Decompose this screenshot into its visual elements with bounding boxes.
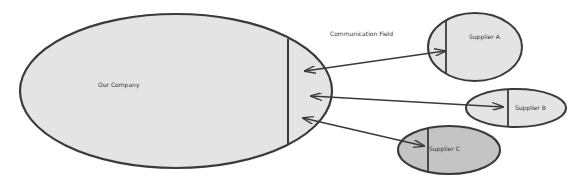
diagram-canvas (0, 0, 582, 184)
supplier-a-label: Supplier A (469, 33, 500, 40)
supplier-b-label: Supplier B (515, 104, 546, 111)
our-company-label: Our Company (98, 81, 139, 88)
arrow-our-company-supplier-c (303, 118, 424, 146)
supplier-a-node (428, 13, 522, 81)
communication-field-label: Communication Field (330, 30, 393, 37)
supplier-c-label: Supplier C (429, 145, 460, 152)
arrow-our-company-supplier-a (305, 51, 445, 71)
our-company-node (20, 14, 332, 168)
